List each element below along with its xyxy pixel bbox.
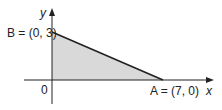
point-b-label: B = (0, 3) — [7, 26, 57, 40]
origin-label: 0 — [41, 83, 48, 97]
y-axis-label: y — [39, 6, 47, 20]
y-axis-arrow-icon — [49, 8, 55, 16]
point-a-label: A = (7, 0) — [150, 84, 199, 98]
x-axis-arrow-icon — [206, 77, 214, 83]
coordinate-diagram: y x 0 B = (0, 3) A = (7, 0) — [0, 0, 222, 110]
x-axis-label: x — [205, 84, 213, 98]
